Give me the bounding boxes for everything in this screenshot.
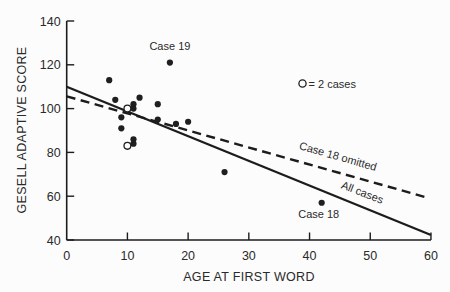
data-point: [319, 200, 325, 206]
point-annotation: Case 18: [298, 208, 339, 220]
data-point: [185, 119, 191, 125]
data-point: [167, 60, 173, 66]
data-point: [118, 125, 124, 131]
point-annotations: Case 19Case 18: [149, 40, 339, 220]
data-point: [221, 169, 227, 175]
gesell-scatter-figure: 1401201008060400102030405060 All casesCa…: [0, 0, 450, 292]
legend: = 2 cases: [299, 78, 356, 90]
x-tick-label: 40: [303, 249, 317, 263]
y-axis-title: GESELL ADAPTIVE SCORE: [15, 46, 29, 213]
y-tick-label: 140: [40, 15, 61, 29]
x-tick-label: 20: [181, 249, 195, 263]
scatter-points: [106, 60, 325, 206]
legend-label: = 2 cases: [309, 78, 357, 90]
regression-line-labels: All casesCase 18 omitted: [298, 139, 386, 206]
regression-line-case-18-omitted: [67, 96, 429, 198]
x-tick-label: 10: [120, 249, 134, 263]
scatter-plot-canvas: 1401201008060400102030405060 All casesCa…: [0, 0, 450, 292]
data-point: [173, 121, 179, 127]
data-point-two-cases: [124, 142, 131, 149]
line-label-case-18-omitted: Case 18 omitted: [298, 139, 378, 173]
data-point: [112, 97, 118, 103]
data-point: [136, 95, 142, 101]
y-tick-label: 40: [47, 234, 61, 248]
x-tick-label: 30: [242, 249, 256, 263]
data-point: [118, 114, 124, 120]
x-tick-label: 0: [63, 249, 70, 263]
data-point: [106, 77, 112, 83]
axis-ticks: 1401201008060400102030405060: [40, 15, 438, 264]
y-tick-label: 100: [40, 102, 61, 116]
x-axis-title: AGE AT FIRST WORD: [183, 270, 315, 284]
data-point-two-cases: [124, 105, 131, 112]
two-cases-circle-icon: [299, 80, 306, 87]
data-point: [155, 116, 161, 122]
point-annotation: Case 19: [149, 40, 190, 52]
data-point: [155, 101, 161, 107]
x-tick-label: 60: [424, 249, 438, 263]
y-tick-label: 80: [47, 146, 61, 160]
y-tick-label: 60: [47, 190, 61, 204]
x-tick-label: 50: [363, 249, 377, 263]
y-tick-label: 120: [40, 58, 61, 72]
